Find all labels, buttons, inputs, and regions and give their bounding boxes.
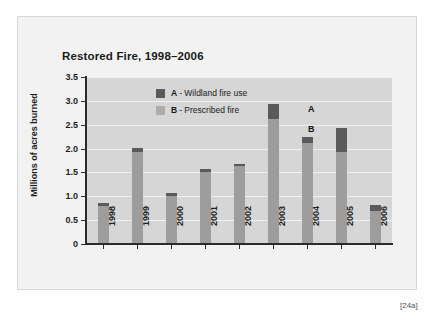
y-axis-tick-labels: 3.53.02.52.01.51.00.50	[52, 0, 78, 323]
y-tick-mark	[81, 172, 86, 173]
y-tick-mark	[81, 244, 86, 245]
y-tick-mark	[81, 125, 86, 126]
x-tick-mark	[137, 245, 138, 249]
figure-root: Restored Fire, 1998–2006 Millions of acr…	[0, 0, 448, 323]
x-tick-label: 2001	[209, 206, 219, 252]
series-a-annotation: A	[308, 104, 315, 114]
chart-title: Restored Fire, 1998–2006	[62, 50, 204, 62]
legend-key: B	[171, 105, 177, 115]
bar-segment-wildland-fire-use	[336, 128, 347, 152]
chart-legend: A- Wildland fire useB- Prescribed fire	[156, 86, 247, 120]
x-tick-mark	[375, 245, 376, 249]
legend-swatch-icon	[156, 106, 165, 115]
y-tick-mark	[81, 149, 86, 150]
x-tick-label: 1999	[141, 206, 151, 252]
y-tick-label: 1.5	[52, 167, 78, 177]
bar-segment-wildland-fire-use	[302, 137, 313, 143]
y-tick-mark	[81, 196, 86, 197]
x-tick-label: 2004	[311, 206, 321, 252]
legend-swatch-icon	[156, 89, 165, 98]
bar-segment-wildland-fire-use	[200, 169, 211, 172]
x-tick-mark	[341, 245, 342, 249]
y-tick-label: 0.5	[52, 215, 78, 225]
legend-item: B- Prescribed fire	[156, 103, 247, 117]
bar-segment-wildland-fire-use	[132, 148, 143, 152]
x-tick-mark	[205, 245, 206, 249]
x-tick-label: 2000	[175, 206, 185, 252]
y-axis-title: Millions of acres burned	[29, 85, 39, 205]
series-b-annotation: B	[308, 124, 315, 134]
y-tick-mark	[81, 101, 86, 102]
x-tick-mark	[307, 245, 308, 249]
x-tick-mark	[171, 245, 172, 249]
legend-key: A	[171, 88, 177, 98]
legend-item: A- Wildland fire use	[156, 86, 247, 100]
x-tick-label: 1998	[107, 206, 117, 252]
x-tick-label: 2002	[243, 206, 253, 252]
y-tick-mark	[81, 220, 86, 221]
y-tick-label: 1.0	[52, 191, 78, 201]
x-tick-mark	[239, 245, 240, 249]
y-tick-label: 3.0	[52, 96, 78, 106]
y-tick-label: 0	[52, 239, 78, 249]
x-tick-mark	[273, 245, 274, 249]
legend-label: - Prescribed fire	[179, 105, 239, 115]
bar-segment-wildland-fire-use	[166, 193, 177, 195]
y-tick-mark	[81, 77, 86, 78]
x-tick-label: 2005	[345, 206, 355, 252]
legend-label: - Wildland fire use	[179, 88, 247, 98]
x-tick-label: 2006	[379, 206, 389, 252]
figure-caption: [24a]	[400, 301, 418, 310]
bar-segment-wildland-fire-use	[234, 164, 245, 166]
gridline	[86, 125, 392, 126]
bar-segment-wildland-fire-use	[268, 104, 279, 119]
x-tick-label: 2003	[277, 206, 287, 252]
y-tick-label: 2.5	[52, 120, 78, 130]
gridline	[86, 77, 392, 78]
x-tick-mark	[103, 245, 104, 249]
y-tick-label: 2.0	[52, 144, 78, 154]
y-tick-label: 3.5	[52, 72, 78, 82]
